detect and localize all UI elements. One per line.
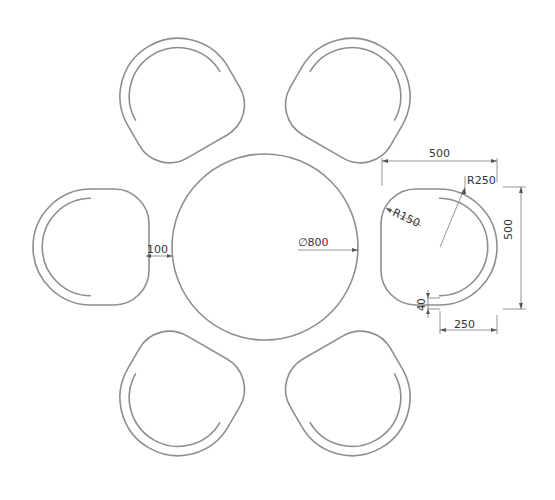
backrest-label: 40: [416, 298, 427, 311]
chair-bottom-right: [273, 318, 431, 476]
chair-top-right: [273, 17, 431, 175]
half-width-label: 250: [454, 318, 475, 331]
height-dimension: [503, 187, 526, 309]
back-radius-dimension: [440, 176, 466, 247]
table-diameter-label: ∅800: [298, 236, 329, 249]
height-label: 500: [502, 219, 515, 240]
chair-bottom-left: [99, 318, 257, 476]
chair-top-left: [99, 17, 257, 175]
table-outline: [172, 154, 358, 340]
chair-left: [33, 189, 149, 305]
width-label: 500: [429, 147, 450, 160]
drawing-canvas: [0, 0, 555, 500]
backrest-dimension: [426, 290, 440, 318]
back-radius-label: R250: [467, 174, 496, 187]
gap-label: 100: [147, 243, 168, 256]
